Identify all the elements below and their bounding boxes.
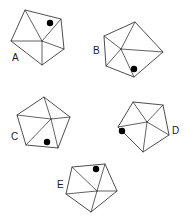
diagonal-c-3 — [51, 119, 58, 148]
diagonal-b-2 — [121, 49, 163, 52]
diagonal-e-5 — [66, 191, 97, 194]
shape-group-c[interactable]: C — [11, 97, 70, 148]
shape-label-a: A — [12, 52, 19, 63]
diagonal-e-4 — [91, 191, 97, 212]
shape-label-b: B — [93, 45, 100, 56]
pentagon-outline-a — [11, 10, 64, 65]
pentagon-outline-c — [17, 97, 70, 148]
diagonal-c-1 — [44, 97, 51, 119]
diagonal-d-4 — [143, 122, 147, 152]
pentagon-figure-canvas: A B C — [0, 0, 186, 218]
diagonal-c-2 — [51, 117, 70, 119]
shape-label-e: E — [57, 179, 64, 190]
dot-marker-d — [119, 128, 125, 134]
pentagon-outline-e — [66, 164, 117, 212]
diagonal-d-1 — [133, 102, 147, 122]
diagonal-d-3 — [147, 122, 169, 135]
shape-label-d: D — [172, 125, 179, 136]
dot-marker-b — [131, 66, 137, 72]
diagonal-b-1 — [121, 22, 135, 49]
shape-group-e[interactable]: E — [57, 164, 117, 212]
diagonal-a-3 — [42, 41, 64, 49]
diagonal-c-5 — [17, 115, 51, 119]
dot-marker-a — [47, 20, 53, 26]
pentagon-diagonals-a — [11, 10, 64, 65]
diagonal-a-1 — [25, 10, 42, 41]
pentagon-outline-d — [118, 102, 169, 152]
shape-group-d[interactable]: D — [118, 102, 179, 152]
dot-marker-e — [93, 166, 99, 172]
figure-container: A B C — [0, 0, 186, 218]
shape-label-c: C — [11, 131, 18, 142]
diagonal-d-5 — [118, 122, 147, 127]
shape-group-a[interactable]: A — [11, 10, 64, 65]
shape-group-b[interactable]: B — [93, 22, 163, 77]
dot-marker-c — [44, 139, 50, 145]
pentagon-diagonals-d — [118, 102, 169, 152]
pentagon-diagonals-e — [66, 164, 117, 212]
diagonal-b-4 — [106, 49, 121, 66]
diagonal-b-5 — [104, 36, 121, 49]
diagonal-d-2 — [147, 105, 163, 122]
